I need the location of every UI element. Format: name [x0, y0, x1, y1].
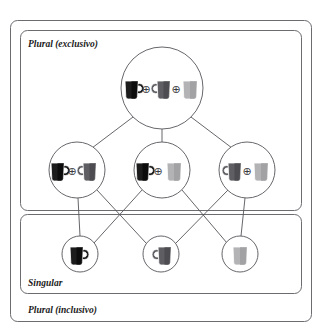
region-singular-label: Singular [28, 278, 63, 288]
edge-abc-bc [191, 117, 232, 148]
mug-light-gray [183, 81, 197, 99]
edge-abc-ab [92, 117, 133, 148]
node-c[interactable] [222, 236, 258, 272]
region-plural-inclusivo-label: Plural (inclusivo) [28, 305, 97, 316]
edge-ac-a [94, 190, 142, 243]
node-b[interactable] [143, 236, 179, 272]
operator-plus-2: ⊕ [171, 83, 180, 96]
semilattice-diagram: Plural (inclusivo) Plural (exclusivo) Si… [0, 0, 322, 336]
operator-plus-5: ⊕ [242, 165, 251, 178]
mug-light-gray [233, 247, 247, 265]
region-plural-exclusivo-label: Plural (exclusivo) [28, 39, 98, 50]
edge-ab-b [97, 190, 146, 243]
edge-bc-c [241, 198, 245, 236]
mug-light-gray [167, 163, 181, 181]
diagram-canvas: Plural (inclusivo) Plural (exclusivo) Si… [0, 0, 322, 336]
node-bc[interactable]: ⊕ [219, 142, 275, 198]
edge-ab-a [78, 198, 80, 236]
operator-plus-4: ⊕ [153, 165, 162, 178]
operator-plus-1: ⊕ [141, 83, 150, 96]
node-ab[interactable]: ⊕ [49, 142, 105, 198]
node-a[interactable] [62, 236, 98, 272]
node-ac[interactable]: ⊕ [134, 142, 190, 198]
operator-plus-3: ⊕ [67, 165, 76, 178]
node-abc[interactable]: ⊕ ⊕ [121, 47, 203, 129]
mug-light-gray [254, 163, 268, 181]
